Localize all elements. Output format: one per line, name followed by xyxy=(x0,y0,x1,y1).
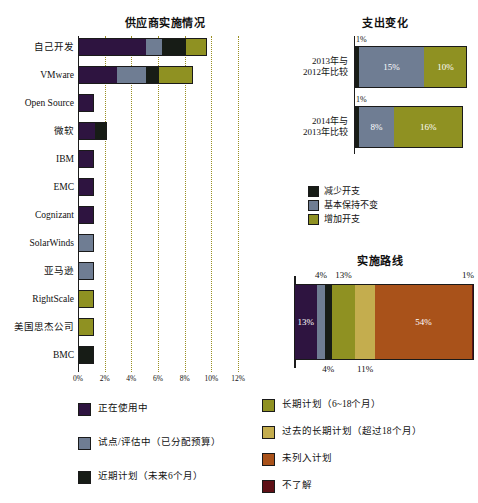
roadmap-bar-segment xyxy=(332,284,355,360)
roadmap-plot-area: 4%4%13%11%1%13%54% xyxy=(294,284,474,360)
vendor-bar-segment xyxy=(186,38,207,56)
vendor-bar[interactable] xyxy=(78,206,94,224)
spending-legend: 减少开支基本保持不变增加开支 xyxy=(308,186,478,228)
spending-outside-value-label: 1% xyxy=(356,35,367,44)
vendor-x-tick-label: 12% xyxy=(231,374,245,383)
spending-legend-swatch xyxy=(308,200,319,211)
roadmap-bar-segment xyxy=(317,284,324,360)
main-legend-right-column: 长期计划（6~18个月）过去的长期计划（超过18个月）未列入计划不了解 xyxy=(262,398,422,503)
spending-bar-segment: 16% xyxy=(394,106,463,148)
main-legend-swatch xyxy=(78,403,91,416)
roadmap-bar-segment xyxy=(355,284,375,360)
implementation-roadmap-chart: 实施路线 4%4%13%11%1%13%54% xyxy=(282,252,478,392)
vendor-bar-segment xyxy=(78,262,94,280)
spending-legend-swatch xyxy=(308,214,319,225)
spending-legend-item[interactable]: 减少开支 xyxy=(308,186,478,197)
vendor-bar-segment xyxy=(78,178,94,196)
vendor-category-label: RightScale xyxy=(0,290,74,308)
vendor-x-tick-label: 0% xyxy=(73,374,83,383)
vendor-bar[interactable] xyxy=(78,66,193,84)
vendor-category-label: BMC xyxy=(0,346,74,364)
spending-outside-value-label: 1% xyxy=(356,95,367,104)
main-legend-swatch xyxy=(262,426,275,439)
main-legend-item[interactable]: 未列入计划 xyxy=(262,452,422,466)
main-legend-label: 未列入计划 xyxy=(282,452,332,465)
spending-segment-value: 16% xyxy=(420,122,437,132)
vendor-bar-segment xyxy=(78,66,117,84)
roadmap-bar-segment: 54% xyxy=(375,284,472,360)
vendor-category-label: IBM xyxy=(0,150,74,168)
spending-segment-value: 10% xyxy=(437,62,454,72)
vendor-bar-segment xyxy=(78,94,94,112)
vendor-gridline-4 xyxy=(131,36,132,372)
vendor-category-label: 亚马逊 xyxy=(0,262,74,280)
main-legend-swatch xyxy=(78,437,91,450)
spending-bar[interactable]: 8%16% xyxy=(355,106,463,148)
main-legend-item[interactable]: 不了解 xyxy=(262,479,422,493)
vendor-category-label: VMware xyxy=(0,66,74,84)
vendor-x-tick-label: 2% xyxy=(100,374,110,383)
vendor-bar-segment xyxy=(78,150,94,168)
vendor-bar-segment xyxy=(78,234,94,252)
vendor-bar[interactable] xyxy=(78,94,94,112)
spending-row-label-line1: 2014年与 xyxy=(290,116,348,127)
spending-legend-item[interactable]: 增加开支 xyxy=(308,214,478,225)
main-legend-item[interactable]: 过去的长期计划（超过18个月） xyxy=(262,425,422,439)
vendor-category-label: Open Source xyxy=(0,94,74,112)
vendor-bar[interactable] xyxy=(78,122,107,140)
vendor-bar[interactable] xyxy=(78,346,94,364)
roadmap-bar[interactable]: 13%54% xyxy=(294,284,474,360)
main-legend-item[interactable]: 试点/评估中（已分配预算） xyxy=(78,436,221,450)
vendor-category-label: 美国思杰公司 xyxy=(0,318,74,336)
roadmap-bar-segment: 13% xyxy=(294,284,317,360)
spending-row-label: 2013年与2012年比较 xyxy=(290,56,348,78)
main-legend-item[interactable]: 长期计划（6~18个月） xyxy=(262,398,422,412)
vendor-bar-segment xyxy=(78,206,94,224)
spending-row-label-line2: 2012年比较 xyxy=(290,67,348,78)
spending-bar[interactable]: 15%10% xyxy=(355,46,467,88)
spending-bar-segment: 15% xyxy=(359,46,424,88)
roadmap-bar-segment xyxy=(325,284,332,360)
roadmap-segment-value: 54% xyxy=(415,317,432,327)
vendor-chart-title: 供应商实施情况 xyxy=(60,14,270,30)
vendor-gridline-2 xyxy=(105,36,106,372)
vendor-gridline-8 xyxy=(185,36,186,372)
vendor-category-label: EMC xyxy=(0,178,74,196)
main-legend-left-column: 正在使用中试点/评估中（已分配预算）近期计划（未来6个月） xyxy=(78,398,221,503)
spending-segment-value: 8% xyxy=(371,122,383,132)
spending-legend-item[interactable]: 基本保持不变 xyxy=(308,200,478,211)
main-legend-swatch xyxy=(78,471,91,484)
vendor-bar[interactable] xyxy=(78,262,94,280)
spending-legend-label: 增加开支 xyxy=(324,214,360,225)
vendor-bar-segment xyxy=(78,318,94,336)
main-legend-swatch xyxy=(262,480,275,493)
vendor-bar-segment xyxy=(78,122,95,140)
vendor-bar-segment xyxy=(146,38,162,56)
vendor-bar[interactable] xyxy=(78,234,94,252)
vendor-bar-segment xyxy=(78,38,146,56)
vendor-category-label: SolarWinds xyxy=(0,234,74,252)
vendor-gridline-10 xyxy=(211,36,212,372)
vendor-bar[interactable] xyxy=(78,150,94,168)
vendor-bar-segment xyxy=(117,66,146,84)
vendor-category-label: 自己开发 xyxy=(0,38,74,56)
main-legend-item[interactable]: 正在使用中 xyxy=(78,402,221,416)
main-legend-label: 长期计划（6~18个月） xyxy=(282,398,381,411)
main-legend-swatch xyxy=(262,453,275,466)
infographic-page: 供应商实施情况 0%2%4%6%8%10%12%自己开发VMwareOpen S… xyxy=(0,0,478,503)
vendor-bar[interactable] xyxy=(78,290,94,308)
vendor-gridline-12 xyxy=(238,36,239,372)
main-legend-label: 近期计划（未来6个月） xyxy=(98,470,203,483)
roadmap-chart-title: 实施路线 xyxy=(282,252,478,268)
vendor-bar[interactable] xyxy=(78,38,207,56)
main-legend-item[interactable]: 近期计划（未来6个月） xyxy=(78,470,221,484)
spending-row-label: 2014年与2013年比较 xyxy=(290,116,348,138)
spending-legend-label: 减少开支 xyxy=(324,186,360,197)
roadmap-segment-outside-value: 4% xyxy=(315,270,327,280)
vendor-bar[interactable] xyxy=(78,178,94,196)
spending-plot-area: 2013年与2012年比较1%15%10%2014年与2013年比较1%8%16… xyxy=(354,36,466,154)
roadmap-segment-outside-value: 4% xyxy=(322,364,334,374)
vendor-bar[interactable] xyxy=(78,318,94,336)
spending-chart-title: 支出变化 xyxy=(292,14,478,30)
vendor-bar-segment xyxy=(78,290,94,308)
